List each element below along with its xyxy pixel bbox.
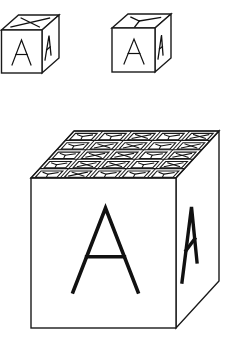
small-cube-x-top: [2, 15, 60, 73]
cube-front-face: [112, 28, 155, 72]
cube-diagram: [0, 0, 231, 337]
cube-front-face: [31, 178, 176, 328]
large-cube-grid-top: [31, 131, 219, 328]
small-cube-y-top: [112, 14, 171, 72]
cube-front-face: [2, 30, 43, 73]
